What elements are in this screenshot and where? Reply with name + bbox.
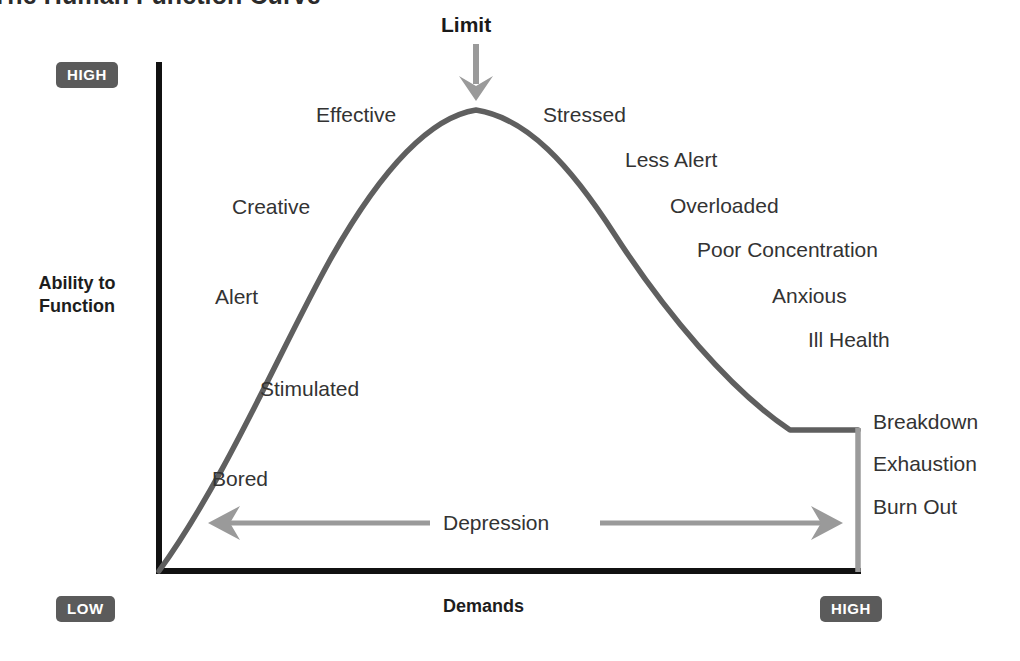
stage-label-burn-out: Burn Out xyxy=(873,496,957,517)
stage-label-anxious: Anxious xyxy=(772,285,847,306)
function-curve xyxy=(159,110,858,571)
stage-label-stimulated: Stimulated xyxy=(260,378,359,399)
stage-label-stressed: Stressed xyxy=(543,104,626,125)
stage-label-alert: Alert xyxy=(215,286,258,307)
stage-label-creative: Creative xyxy=(232,196,310,217)
stage-label-exhaustion: Exhaustion xyxy=(873,453,977,474)
stage-label-effective: Effective xyxy=(316,104,396,125)
stage-label-poor-concentration: Poor Concentration xyxy=(697,239,878,260)
limit-label: Limit xyxy=(441,14,491,35)
limit-arrow-icon xyxy=(459,44,493,101)
depression-label: Depression xyxy=(443,512,549,533)
stage-label-bored: Bored xyxy=(212,468,268,489)
human-function-curve-diagram: The Human Function Curve HIGH LOW HIGH A… xyxy=(0,0,1020,661)
stage-label-ill-health: Ill Health xyxy=(808,329,890,350)
stage-label-overloaded: Overloaded xyxy=(670,195,779,216)
stage-label-breakdown: Breakdown xyxy=(873,411,978,432)
stage-label-less-alert: Less Alert xyxy=(625,149,717,170)
